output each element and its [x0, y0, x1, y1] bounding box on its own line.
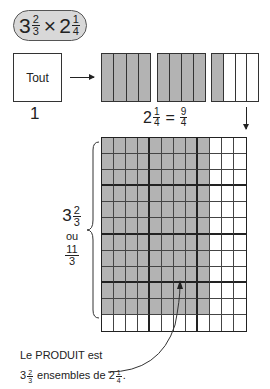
product-caption: Le PRODUIT est 323 ensembles de 214. — [20, 345, 126, 385]
pointer-curve-icon — [0, 0, 270, 389]
